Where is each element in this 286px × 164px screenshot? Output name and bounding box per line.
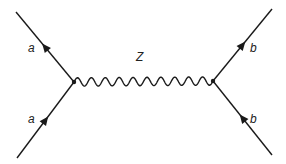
diagram-canvas (0, 0, 286, 164)
label-b-bottom: b (250, 113, 257, 125)
z-boson-propagator (74, 77, 213, 86)
right-vertex (211, 79, 215, 83)
fermion-lines (16, 9, 272, 158)
arrow-icon (240, 114, 249, 124)
label-b-top: b (250, 42, 257, 54)
left-vertex (72, 80, 76, 84)
feynman-diagram: a a Z b b (0, 0, 286, 164)
label-z: Z (136, 51, 143, 63)
arrow-icon (40, 116, 49, 126)
label-a-top: a (28, 42, 35, 54)
label-a-bottom: a (28, 113, 35, 125)
